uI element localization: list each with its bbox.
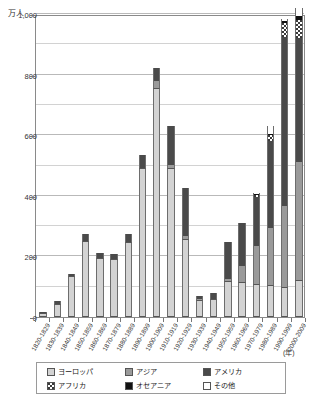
bar-1880-1889[interactable] <box>125 14 132 317</box>
bar-1980-1989[interactable] <box>267 14 274 317</box>
bar-segment-america <box>253 197 260 246</box>
x-tick-mark <box>234 318 235 322</box>
bar-segment-america <box>125 234 132 242</box>
bar-segment-europe <box>267 285 274 317</box>
x-tick-mark <box>191 318 192 322</box>
bar-segment-asia <box>281 206 288 286</box>
bar-1970-1979[interactable] <box>253 14 260 317</box>
bar-1930-1939[interactable] <box>196 14 203 317</box>
legend-label: アフリカ <box>58 381 86 390</box>
bar-segment-asia <box>295 162 302 280</box>
x-tick-mark <box>206 318 207 322</box>
x-tick-mark <box>78 318 79 322</box>
bar-segment-europe <box>110 259 117 317</box>
x-tick-mark <box>177 318 178 322</box>
bar-segment-asia <box>253 246 260 284</box>
oceania-swatch <box>125 382 133 390</box>
europe-swatch <box>47 368 55 376</box>
bar-1850-1859[interactable] <box>82 14 89 317</box>
asia-swatch <box>125 368 133 376</box>
legend-item-asia[interactable]: アジア <box>125 367 157 376</box>
bar-segment-europe <box>253 284 260 317</box>
legend-label: ヨーロッパ <box>58 367 93 376</box>
bar-segment-america <box>281 37 288 207</box>
bar-segment-other <box>267 126 274 134</box>
bar-segment-europe <box>196 300 203 317</box>
bar-1830-1839[interactable] <box>54 14 61 317</box>
bar-segment-europe <box>96 258 103 317</box>
bar-1940-1949[interactable] <box>210 14 217 317</box>
y-tick-mark <box>30 136 35 137</box>
bar-segment-america <box>182 188 189 236</box>
bar-1840-1849[interactable] <box>68 14 75 317</box>
bar-segment-europe <box>224 281 231 317</box>
x-tick-mark <box>305 318 306 322</box>
bar-series-container <box>36 16 304 317</box>
bar-2000-2009[interactable] <box>295 14 302 317</box>
legend-label: アメリカ <box>214 367 242 376</box>
bar-1910-1919[interactable] <box>167 14 174 317</box>
bar-segment-america <box>238 223 245 265</box>
x-tick-mark <box>92 318 93 322</box>
legend-label: オセアニア <box>136 381 171 390</box>
x-tick-mark <box>220 318 221 322</box>
x-tick-mark <box>149 318 150 322</box>
legend-item-oceania[interactable]: オセアニア <box>125 381 171 390</box>
bar-1920-1929[interactable] <box>182 14 189 317</box>
x-tick-mark <box>49 318 50 322</box>
plot-area <box>35 15 305 318</box>
bar-segment-europe <box>182 239 189 317</box>
bar-segment-europe <box>125 242 132 317</box>
bar-segment-europe <box>82 241 89 317</box>
bar-segment-america <box>167 126 174 165</box>
x-axis-unit-label: (年) <box>283 347 295 357</box>
bar-segment-america <box>295 38 302 162</box>
y-tick-mark <box>30 76 35 77</box>
y-tick-mark <box>30 15 35 16</box>
bar-segment-africa <box>281 23 288 37</box>
bar-1870-1879[interactable] <box>110 14 117 317</box>
bar-segment-america <box>224 242 231 279</box>
x-tick-mark <box>163 318 164 322</box>
chart-root: 万人 02004006008001,000 1820-18291830-1839… <box>0 0 311 398</box>
x-tick-mark <box>134 318 135 322</box>
bar-segment-europe <box>210 299 217 317</box>
legend-item-europe[interactable]: ヨーロッパ <box>47 367 93 376</box>
bar-1900-1909[interactable] <box>153 14 160 317</box>
legend-item-other[interactable]: その他 <box>203 381 235 390</box>
legend-item-america[interactable]: アメリカ <box>203 367 242 376</box>
africa-swatch <box>47 382 55 390</box>
bar-segment-asia <box>153 81 160 89</box>
x-tick-mark <box>63 318 64 322</box>
legend-label: その他 <box>214 381 235 390</box>
bar-segment-europe <box>68 276 75 317</box>
bar-1990-1999[interactable] <box>281 14 288 317</box>
y-tick-mark <box>30 197 35 198</box>
legend-label: アジア <box>136 367 157 376</box>
bar-segment-other <box>295 8 302 16</box>
bar-1820-1829[interactable] <box>39 14 46 317</box>
bar-segment-europe <box>238 282 245 317</box>
bar-segment-america <box>82 234 89 241</box>
x-tick-mark <box>291 318 292 322</box>
x-tick-mark <box>262 318 263 322</box>
bar-1860-1869[interactable] <box>96 14 103 317</box>
bar-segment-europe <box>139 168 146 317</box>
x-tick-mark <box>120 318 121 322</box>
x-tick-mark <box>277 318 278 322</box>
legend-item-africa[interactable]: アフリカ <box>47 381 86 390</box>
bar-1890-1899[interactable] <box>139 14 146 317</box>
bar-segment-europe <box>281 287 288 317</box>
chart-legend: ヨーロッパアジアアメリカアフリカオセアニアその他 <box>36 362 286 394</box>
bar-segment-europe <box>167 168 174 317</box>
other-swatch <box>203 382 211 390</box>
bar-1950-1959[interactable] <box>224 14 231 317</box>
bar-1960-1969[interactable] <box>238 14 245 317</box>
x-tick-mark <box>248 318 249 322</box>
bar-segment-asia <box>238 266 245 282</box>
bar-segment-africa <box>295 20 302 38</box>
bar-segment-america <box>267 141 274 227</box>
x-tick-mark <box>106 318 107 322</box>
x-tick-mark <box>35 318 36 322</box>
bar-segment-europe <box>295 280 302 317</box>
